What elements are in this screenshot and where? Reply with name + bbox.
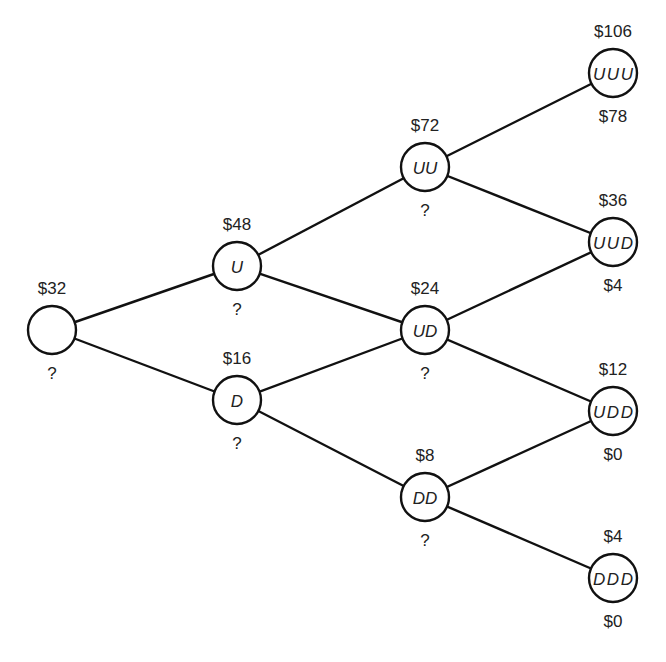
node-option-value: ? xyxy=(47,364,56,383)
node-uu: UU$72? xyxy=(401,116,449,220)
edge-uu-uuu xyxy=(425,73,613,167)
node-option-value: ? xyxy=(232,434,241,453)
edge-u-uu xyxy=(237,167,425,266)
tree-edges xyxy=(52,73,613,578)
edge-d-dd xyxy=(237,400,425,497)
node-udd: UDD$12$0 xyxy=(589,360,637,464)
node-price: $106 xyxy=(594,22,632,41)
node-price: $32 xyxy=(38,279,66,298)
node-price: $8 xyxy=(416,446,435,465)
node-label: UU xyxy=(413,159,438,178)
node-circle xyxy=(28,306,76,354)
node-uud: UUD$36$4 xyxy=(589,191,637,295)
edge-u-ud xyxy=(237,266,425,330)
node-price: $36 xyxy=(599,191,627,210)
node-u: U$48? xyxy=(213,215,261,319)
edge-root-u xyxy=(52,266,237,330)
node-option-value: ? xyxy=(420,364,429,383)
node-ddd: DDD$4$0 xyxy=(589,527,637,631)
node-price: $12 xyxy=(599,360,627,379)
node-label: UD xyxy=(413,322,438,341)
node-uuu: UUU$106$78 xyxy=(589,22,637,126)
node-label: UUD xyxy=(593,234,633,253)
node-d: D$16? xyxy=(213,349,261,453)
node-option-value: $78 xyxy=(599,107,627,126)
edge-uu-uud xyxy=(425,167,613,242)
edge-root-d xyxy=(52,330,237,400)
node-price: $48 xyxy=(223,215,251,234)
node-price: $4 xyxy=(604,527,623,546)
node-label: UDD xyxy=(593,403,633,422)
node-root: $32? xyxy=(28,279,76,383)
node-option-value: $4 xyxy=(604,276,623,295)
edge-ud-uud xyxy=(425,242,613,330)
node-label: DDD xyxy=(593,570,633,589)
node-price: $24 xyxy=(411,279,439,298)
node-dd: DD$8? xyxy=(401,446,449,550)
edge-ud-udd xyxy=(425,330,613,411)
node-option-value: $0 xyxy=(604,445,623,464)
binomial-tree-diagram: $32?U$48?D$16?UU$72?UD$24?DD$8?UUU$106$7… xyxy=(0,0,666,662)
node-label: U xyxy=(231,258,244,277)
node-price: $72 xyxy=(411,116,439,135)
node-price: $16 xyxy=(223,349,251,368)
tree-nodes: $32?U$48?D$16?UU$72?UD$24?DD$8?UUU$106$7… xyxy=(28,22,637,631)
node-option-value: $0 xyxy=(604,612,623,631)
node-label: UUU xyxy=(593,65,634,84)
edge-dd-udd xyxy=(425,411,613,497)
node-ud: UD$24? xyxy=(401,279,449,383)
node-option-value: ? xyxy=(232,300,241,319)
node-label: DD xyxy=(413,489,438,508)
node-option-value: ? xyxy=(420,531,429,550)
node-option-value: ? xyxy=(420,201,429,220)
node-label: D xyxy=(231,392,243,411)
edge-d-ud xyxy=(237,330,425,400)
edge-dd-ddd xyxy=(425,497,613,578)
